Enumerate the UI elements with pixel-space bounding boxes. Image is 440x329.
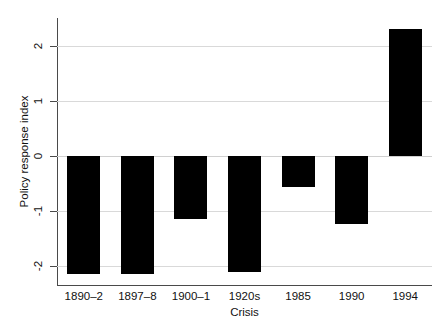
y-tick-label: 2 (30, 36, 46, 56)
y-tick-label: 1 (30, 91, 46, 111)
bar (389, 29, 422, 156)
bar (228, 156, 261, 273)
y-tick-label: -1 (30, 201, 46, 221)
y-tick-mark (50, 156, 57, 157)
gridline (57, 101, 432, 102)
y-tick-label: -2 (30, 256, 46, 276)
y-tick-mark (50, 266, 57, 267)
x-tick-label: 1994 (370, 290, 440, 302)
y-tick-mark (50, 46, 57, 47)
bar (121, 156, 154, 274)
bar (174, 156, 207, 219)
x-axis-title: Crisis (210, 306, 280, 318)
bar (67, 156, 100, 274)
x-axis-line (57, 285, 432, 286)
plot-area (57, 18, 432, 285)
bar-chart: Policy response index 210-1-2 1890–21897… (0, 0, 440, 329)
y-tick-mark (50, 101, 57, 102)
y-tick-mark (50, 211, 57, 212)
gridline (57, 46, 432, 47)
bar (282, 156, 315, 187)
bar (335, 156, 368, 225)
y-tick-label: 0 (30, 146, 46, 166)
